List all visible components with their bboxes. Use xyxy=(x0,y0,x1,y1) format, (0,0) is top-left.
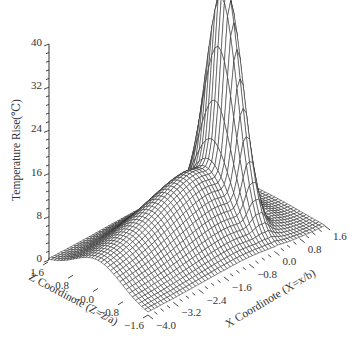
z-axis-title: Z Coordinote (Z=z/a) xyxy=(27,270,121,328)
x-tick-label: −3.2 xyxy=(181,306,201,318)
value-tick-label: 32 xyxy=(31,79,42,91)
value-tick-label: 24 xyxy=(31,122,43,134)
value-tick-label: 0 xyxy=(37,252,43,264)
z-tick-label: −1.6 xyxy=(124,319,144,331)
x-tick-label: −2.4 xyxy=(207,294,227,306)
x-tick-label: 0.0 xyxy=(282,255,296,267)
surface-plot: 0816243240 −4.0−3.2−2.4−1.6−0.80.00.81.6… xyxy=(0,0,357,353)
value-tick-label: 16 xyxy=(31,166,43,178)
value-axis-title: Temperature Rise(℃) xyxy=(10,99,23,201)
x-tick-label: −4.0 xyxy=(156,319,176,331)
x-tick-label: −1.6 xyxy=(232,281,252,293)
x-tick-label: 1.6 xyxy=(333,230,347,242)
value-tick-label: 40 xyxy=(31,36,43,48)
value-axis: 0816243240 xyxy=(31,36,49,264)
x-tick-label: 0.8 xyxy=(308,243,322,255)
x-tick-label: −0.8 xyxy=(257,268,277,280)
value-tick-label: 8 xyxy=(37,209,43,221)
